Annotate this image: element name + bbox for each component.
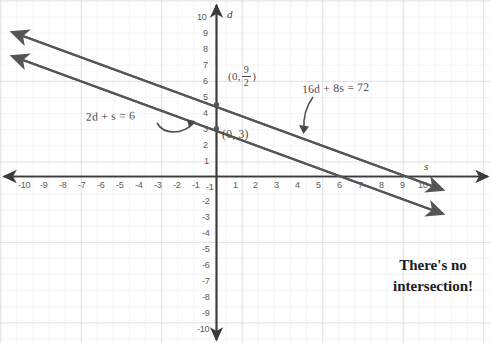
fraction-numerator: 9 bbox=[242, 65, 251, 76]
x-tick-1: 1 bbox=[233, 180, 238, 190]
conclusion-text: There's no intersection! bbox=[377, 255, 489, 296]
x-tick--2: -2 bbox=[173, 180, 181, 190]
x-tick-5: 5 bbox=[316, 180, 321, 190]
x-tick--1: -1 bbox=[192, 180, 200, 190]
y-tick-5: 5 bbox=[203, 92, 208, 102]
x-tick-4: 4 bbox=[295, 180, 300, 190]
fraction-denominator: 2 bbox=[242, 76, 251, 88]
x-tick--6: -6 bbox=[97, 180, 105, 190]
point-upper-prefix: (0, bbox=[228, 70, 241, 82]
y-tick--1: -1 bbox=[206, 182, 214, 192]
y-tick-2: 2 bbox=[203, 140, 208, 150]
y-tick-1: 1 bbox=[204, 156, 209, 166]
pointer-arrow-lower-equation bbox=[157, 120, 196, 133]
x-tick--9: -9 bbox=[40, 180, 48, 190]
y-tick-7: 7 bbox=[203, 60, 208, 70]
x-tick-9: 9 bbox=[400, 180, 405, 190]
x-tick-3: 3 bbox=[274, 180, 279, 190]
y-tick--3: -3 bbox=[202, 212, 210, 222]
y-tick--9: -9 bbox=[202, 308, 210, 318]
y-tick-4: 4 bbox=[203, 108, 208, 118]
x-tick--7: -7 bbox=[78, 180, 86, 190]
y-tick-10: 10 bbox=[197, 12, 207, 22]
y-tick--10: -10 bbox=[197, 324, 209, 334]
graph-figure: -10 -9 -8 -7 -6 -5 -4 -3 -2 -1 1 2 3 4 5… bbox=[0, 0, 491, 343]
equation-label-upper: 16d + 8s = 72 bbox=[302, 81, 370, 95]
x-tick-6: 6 bbox=[337, 180, 342, 190]
line-16d-8s-72 bbox=[12, 32, 443, 190]
y-tick--8: -8 bbox=[202, 292, 210, 302]
x-axis-label: s bbox=[424, 160, 428, 172]
pointer-arrow-upper-equation bbox=[299, 97, 313, 134]
x-tick-10: 10 bbox=[418, 180, 428, 190]
x-tick-8: 8 bbox=[379, 180, 384, 190]
x-tick--8: -8 bbox=[59, 180, 67, 190]
equation-label-lower: 2d + s = 6 bbox=[86, 109, 136, 122]
y-tick-6: 6 bbox=[203, 76, 208, 86]
y-tick--7: -7 bbox=[202, 276, 210, 286]
y-axis-label: d bbox=[227, 8, 233, 20]
y-tick-9: 9 bbox=[203, 28, 208, 38]
x-tick--5: -5 bbox=[116, 180, 124, 190]
x-tick--4: -4 bbox=[135, 180, 143, 190]
conclusion-line-2: intersection! bbox=[377, 276, 489, 297]
y-tick-8: 8 bbox=[203, 44, 208, 54]
y-tick--6: -6 bbox=[202, 260, 210, 270]
x-tick-2: 2 bbox=[253, 180, 258, 190]
point-label-upper-intercept: (0,92) bbox=[228, 66, 256, 89]
x-tick-7: 7 bbox=[358, 180, 363, 190]
point-upper-suffix: ) bbox=[252, 70, 256, 82]
x-tick--3: -3 bbox=[154, 180, 162, 190]
point-label-lower-intercept: (0, 3) bbox=[222, 128, 249, 140]
conclusion-line-1: There's no bbox=[399, 257, 467, 273]
y-tick--5: -5 bbox=[202, 244, 210, 254]
y-tick--2: -2 bbox=[202, 196, 210, 206]
y-tick--4: -4 bbox=[202, 228, 210, 238]
x-tick--10: -10 bbox=[18, 180, 30, 190]
fraction-nine-halves: 92 bbox=[242, 65, 251, 88]
y-tick-3: 3 bbox=[203, 124, 208, 134]
